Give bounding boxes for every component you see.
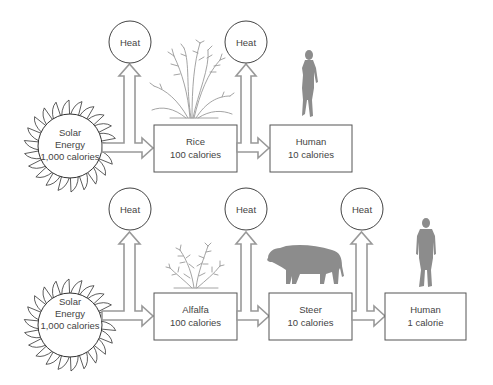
node-name: Alfalfa: [182, 304, 209, 315]
energy-flow-arrow: [236, 232, 269, 326]
heat-label: Heat: [236, 37, 256, 48]
solar-label-line1: Solar: [59, 127, 81, 138]
node-value: 100 calories: [170, 317, 221, 328]
alfalfa-plant-icon: [166, 243, 224, 288]
solar-label-line3: 1,000 calories: [40, 151, 99, 162]
rice-plant-icon: [150, 40, 234, 118]
woman-silhouette-icon: [302, 50, 318, 117]
heat-label: Heat: [352, 204, 372, 215]
node-value: 10 calories: [288, 317, 334, 328]
energy-flow-arrow: [102, 232, 153, 326]
energy-flow-arrow: [102, 64, 153, 158]
node-value: 100 calories: [170, 149, 221, 160]
rice-chain-row: Solar Energy 1,000 calories Heat: [24, 21, 352, 192]
alfalfa-steer-chain-row: Solar Energy 1,000 calories Heat Alfalfa…: [24, 188, 466, 371]
node-name: Human: [296, 136, 327, 147]
node-value: 10 calories: [288, 149, 334, 160]
node-name: Human: [410, 304, 441, 315]
heat-label: Heat: [236, 204, 256, 215]
energy-diagram: Solar Energy 1,000 calories Heat: [0, 0, 493, 385]
energy-flow-arrow: [236, 64, 269, 158]
man-silhouette-icon: [416, 218, 436, 287]
solar-label-line3: 1,000 calories: [40, 320, 99, 331]
heat-label: Heat: [120, 204, 140, 215]
solar-label-line2: Energy: [55, 308, 85, 319]
solar-label-line1: Solar: [59, 296, 81, 307]
energy-flow-arrow: [351, 232, 385, 326]
node-value: 1 calorie: [408, 317, 444, 328]
steer-silhouette-icon: [267, 245, 344, 284]
node-name: Steer: [299, 304, 322, 315]
heat-label: Heat: [120, 37, 140, 48]
node-name: Rice: [186, 136, 205, 147]
solar-label-line2: Energy: [55, 139, 85, 150]
